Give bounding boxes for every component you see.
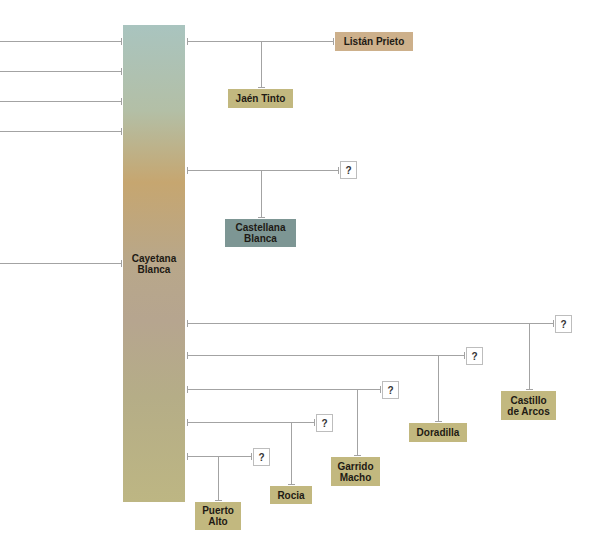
node-jaen-tinto[interactable]: Jaén Tinto xyxy=(228,89,293,108)
unknown-parent-node[interactable]: ? xyxy=(316,414,333,432)
unknown-parent-node[interactable]: ? xyxy=(466,347,483,365)
unknown-parent-node[interactable]: ? xyxy=(340,161,357,179)
node-label: Macho xyxy=(340,472,372,483)
question-mark: ? xyxy=(345,165,351,176)
question-mark: ? xyxy=(321,418,327,429)
question-mark: ? xyxy=(387,385,393,396)
label-line: Blanca xyxy=(132,264,176,275)
node-label: Blanca xyxy=(244,233,277,244)
question-mark: ? xyxy=(560,319,566,330)
node-listan-prieto[interactable]: Listán Prieto xyxy=(335,32,413,51)
node-doradilla[interactable]: Doradilla xyxy=(409,423,467,442)
question-mark: ? xyxy=(258,452,264,463)
node-label: Puerto xyxy=(202,505,234,516)
cayetana-blanca-bar[interactable]: Cayetana Blanca xyxy=(123,25,185,502)
node-label: Rocia xyxy=(277,490,304,501)
node-label: Alto xyxy=(208,516,227,527)
node-label: Listán Prieto xyxy=(344,36,405,47)
unknown-parent-node[interactable]: ? xyxy=(555,315,572,333)
node-label: Garrido xyxy=(337,461,373,472)
label-line: Cayetana xyxy=(132,253,176,264)
node-garrido-macho[interactable]: Garrido Macho xyxy=(331,457,380,486)
node-label: Jaén Tinto xyxy=(236,93,286,104)
question-mark: ? xyxy=(471,351,477,362)
node-label: Castillo xyxy=(510,395,546,406)
unknown-parent-node[interactable]: ? xyxy=(253,448,270,466)
unknown-parent-node[interactable]: ? xyxy=(382,381,399,399)
node-puerto-alto[interactable]: Puerto Alto xyxy=(195,502,241,530)
cayetana-blanca-label: Cayetana Blanca xyxy=(132,253,176,275)
node-label: de Arcos xyxy=(507,406,549,417)
node-rocia[interactable]: Rocia xyxy=(270,486,312,504)
connector-lines xyxy=(0,0,612,559)
node-label: Castellana xyxy=(235,222,285,233)
node-castellana-blanca[interactable]: Castellana Blanca xyxy=(225,219,296,247)
node-castillo-de-arcos[interactable]: Castillo de Arcos xyxy=(501,391,556,420)
node-label: Doradilla xyxy=(417,427,460,438)
